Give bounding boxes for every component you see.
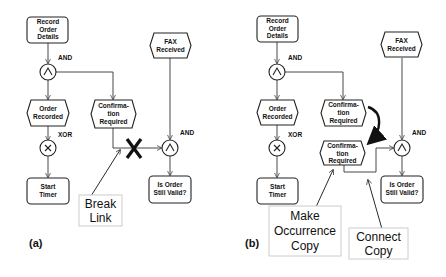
event-confirmation-required[interactable]: Confirma- tion Required [321, 100, 366, 126]
node-label: Record [266, 17, 288, 24]
node-label: Record [37, 18, 59, 25]
callout-connect-copy: Connect Copy [349, 228, 408, 259]
event-order-recorded[interactable]: Order Recorded [257, 100, 298, 125]
node-label: Received [387, 45, 416, 52]
node-label: Received [156, 46, 185, 53]
callout-label: Break [85, 197, 117, 211]
node-label: Required [99, 118, 127, 126]
node-label: Recorded [263, 113, 293, 120]
panel-a: Record Order Details AND Order Recorded … [27, 17, 194, 249]
node-label: Timer [269, 191, 287, 198]
event-confirmation-required-copy[interactable]: Confirma- tion Required [320, 141, 365, 165]
connector [56, 72, 113, 99]
node-label: Confirma- [327, 142, 358, 149]
panel-tag-a: (a) [29, 237, 43, 249]
node-label: Is Order [390, 181, 415, 188]
xor-gate-icon[interactable] [40, 140, 56, 156]
callout-break-link: Break Link [79, 195, 122, 226]
function-record-order-details[interactable]: Record Order Details [257, 16, 298, 42]
panel-tag-b: (b) [245, 237, 259, 249]
callout-label: Connect [356, 230, 401, 244]
node-label: Start [41, 183, 57, 190]
node-label: FAX [395, 37, 408, 44]
node-label: Recorded [33, 113, 63, 120]
node-label: Timer [39, 191, 57, 198]
callout-make-occurrence-copy: Make Occurrence Copy [269, 206, 341, 256]
gate-label-and: AND [412, 129, 426, 136]
node-label: Confirma- [328, 101, 359, 108]
node-label: Order [39, 105, 57, 112]
connector [285, 72, 343, 99]
callout-arrow [368, 180, 382, 229]
event-order-recorded[interactable]: Order Recorded [27, 100, 69, 126]
event-fax-received[interactable]: FAX Received [381, 32, 422, 57]
callout-arrow [316, 170, 333, 207]
node-label: Details [267, 32, 289, 39]
function-record-order-details[interactable]: Record Order Details [27, 17, 68, 43]
node-label: Still Valid? [386, 189, 419, 196]
callout-label: Make [290, 209, 320, 223]
node-label: Required [329, 117, 357, 125]
gate-label-and: AND [180, 129, 194, 136]
node-label: Start [270, 183, 286, 190]
node-label: Required [328, 157, 356, 165]
gate-label-and: AND [58, 54, 72, 61]
gate-label-xor: XOR [58, 131, 72, 138]
event-confirmation-required[interactable]: Confirma- tion Required [91, 100, 136, 128]
node-label: Order [39, 26, 57, 33]
event-fax-received[interactable]: FAX Received [150, 33, 191, 58]
gate-label-xor: XOR [288, 131, 302, 138]
function-start-timer[interactable]: Start Timer [257, 178, 298, 204]
and-gate-icon[interactable] [394, 140, 410, 156]
callout-label: Copy [291, 239, 319, 253]
node-label: tion [108, 110, 120, 117]
callout-label: Copy [364, 244, 392, 258]
function-is-order-still-valid[interactable]: Is Order Still Valid? [381, 176, 423, 203]
and-gate-icon[interactable] [40, 64, 56, 80]
node-label: Order [269, 105, 287, 112]
callout-label: Occurrence [274, 224, 336, 238]
node-label: Still Valid? [154, 189, 187, 196]
node-label: Details [37, 33, 59, 40]
xor-gate-icon[interactable] [269, 140, 285, 156]
break-link-x-icon [127, 139, 141, 158]
panel-b: Record Order Details AND Order Recorded … [245, 16, 426, 259]
node-label: tion [338, 109, 350, 116]
and-gate-icon[interactable] [269, 64, 285, 80]
function-start-timer[interactable]: Start Timer [27, 178, 69, 204]
event-process-chain-diagram: Record Order Details AND Order Recorded … [0, 0, 446, 277]
node-label: tion [337, 150, 349, 157]
node-label: Confirma- [98, 102, 129, 109]
node-label: FAX [164, 38, 177, 45]
and-gate-icon[interactable] [162, 140, 178, 156]
node-label: Order [269, 25, 287, 32]
copy-arrow [368, 107, 379, 142]
function-is-order-still-valid[interactable]: Is Order Still Valid? [149, 176, 191, 203]
callout-arrow [91, 150, 120, 196]
node-label: Is Order [158, 181, 183, 188]
gate-label-and: AND [288, 54, 302, 61]
callout-label: Link [89, 211, 112, 225]
